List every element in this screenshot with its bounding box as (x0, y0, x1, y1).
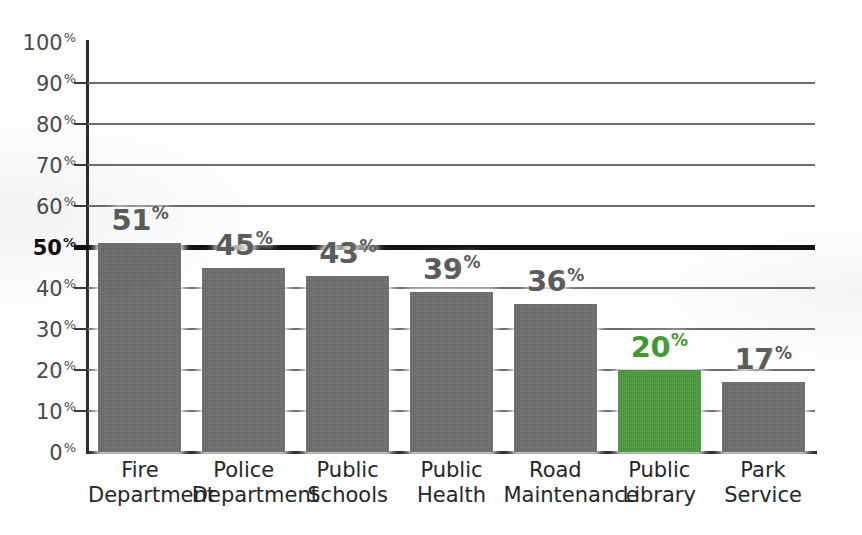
bar-value-number: 39 (423, 252, 462, 286)
y-tick-value: 30 (36, 318, 63, 342)
percent-symbol: % (152, 203, 169, 223)
category-label-line: Public (400, 458, 504, 483)
bar[interactable] (514, 304, 597, 452)
category-label: FireDepartment (88, 458, 192, 508)
bar-slot: 51% (98, 42, 181, 452)
bar-value-label: 45% (202, 228, 285, 262)
y-tick-label-10: 10% (36, 399, 76, 424)
category-label: PublicHealth (400, 458, 504, 508)
category-label-line: Public (296, 458, 400, 483)
percent-symbol: % (64, 30, 76, 45)
y-tick-label-80: 80% (36, 112, 76, 137)
tick-stub-90 (74, 82, 88, 84)
y-tick-value: 80 (36, 113, 63, 137)
tick-stub-30 (74, 328, 88, 330)
y-tick-value: 10 (36, 400, 63, 424)
category-label-line: Road (503, 458, 607, 483)
y-tick-label-20: 20% (36, 358, 76, 383)
bar-chart: 0%10%20%30%40%50%60%70%80%90%100% 51%45%… (0, 0, 862, 535)
y-tick-label-50: 50% (33, 235, 76, 260)
bar-slot: 39% (410, 42, 493, 452)
bar-value-label: 43% (306, 236, 389, 270)
plot-area: 51%45%43%39%36%20%17% (88, 42, 815, 452)
category-label-line: Department (88, 483, 192, 508)
category-label-line: Library (607, 483, 711, 508)
bar-value-number: 43 (319, 236, 358, 270)
bar[interactable] (98, 243, 181, 452)
category-label-line: Public (607, 458, 711, 483)
tick-stub-50 (74, 245, 88, 250)
y-tick-label-30: 30% (36, 317, 76, 342)
bar-series: 51%45%43%39%36%20%17% (88, 42, 815, 452)
category-label: PublicSchools (296, 458, 400, 508)
bar-value-label: 51% (98, 203, 181, 237)
tick-stub-70 (74, 164, 88, 166)
category-label-line: Maintenance (503, 483, 607, 508)
category-label: PoliceDepartment (192, 458, 296, 508)
y-tick-value: 40 (36, 277, 63, 301)
tick-stub-40 (74, 287, 88, 289)
category-label-line: Police (192, 458, 296, 483)
tick-stub-10 (74, 410, 88, 412)
bar[interactable] (410, 292, 493, 452)
bar-value-number: 17 (735, 342, 774, 376)
percent-symbol: % (463, 252, 480, 272)
category-label: ParkService (711, 458, 815, 508)
percent-symbol: % (775, 343, 792, 363)
bar-value-number: 51 (111, 203, 150, 237)
bar-slot: 17% (722, 42, 805, 452)
bar[interactable] (306, 276, 389, 452)
x-axis-category-labels: FireDepartmentPoliceDepartmentPublicScho… (88, 458, 815, 528)
bar-slot: 20% (618, 42, 701, 452)
y-tick-value: 90 (36, 72, 63, 96)
y-tick-label-90: 90% (36, 71, 76, 96)
bar-slot: 36% (514, 42, 597, 452)
percent-symbol: % (64, 440, 76, 455)
tick-stub-80 (74, 123, 88, 125)
bar-value-label: 17% (722, 342, 805, 376)
category-label-line: Park (711, 458, 815, 483)
category-label-line: Department (192, 483, 296, 508)
y-tick-value: 20 (36, 359, 63, 383)
percent-symbol: % (360, 236, 377, 256)
percent-symbol: % (567, 265, 584, 285)
y-tick-value: 60 (36, 195, 63, 219)
category-label-line: Fire (88, 458, 192, 483)
bar-slot: 45% (202, 42, 285, 452)
bar-value-number: 45 (215, 228, 254, 262)
category-label-line: Service (711, 483, 815, 508)
percent-symbol: % (256, 228, 273, 248)
bar-value-label: 36% (514, 264, 597, 298)
bar-value-number: 36 (527, 264, 566, 298)
y-tick-value: 50 (33, 236, 62, 260)
bar[interactable] (202, 268, 285, 453)
category-label: RoadMaintenance (503, 458, 607, 508)
bar-value-number: 20 (631, 330, 670, 364)
y-tick-value: 100 (23, 31, 63, 55)
tick-stub-60 (74, 205, 88, 207)
bar-value-label: 20% (618, 330, 701, 364)
y-tick-value: 70 (36, 154, 63, 178)
y-tick-label-0: 0% (49, 440, 76, 465)
bar-slot: 43% (306, 42, 389, 452)
bar[interactable] (722, 382, 805, 452)
percent-symbol: % (671, 330, 688, 350)
category-label-line: Health (400, 483, 504, 508)
category-label-line: Schools (296, 483, 400, 508)
y-tick-label-70: 70% (36, 153, 76, 178)
bar-value-label: 39% (410, 252, 493, 286)
tick-stub-20 (74, 369, 88, 371)
bar[interactable] (618, 370, 701, 452)
y-tick-label-60: 60% (36, 194, 76, 219)
category-label: PublicLibrary (607, 458, 711, 508)
y-tick-label-100: 100% (23, 30, 76, 55)
y-tick-label-40: 40% (36, 276, 76, 301)
y-tick-value: 0 (49, 441, 62, 465)
